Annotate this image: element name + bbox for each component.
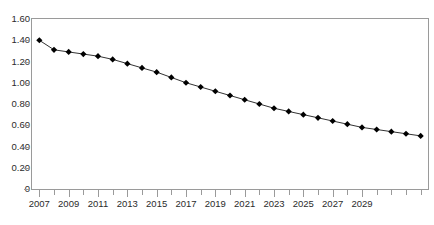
data-point-marker (110, 56, 116, 62)
x-tick-label: 2019 (205, 198, 226, 209)
x-tick-mark (39, 190, 40, 197)
x-tick-label: 2023 (263, 198, 284, 209)
x-tick-mark (274, 190, 275, 197)
x-tick-mark (69, 190, 70, 197)
y-axis-labels: 1.601.401.201.000.800.600.400.200 (0, 0, 30, 225)
y-tick-label: 1.60 (12, 14, 31, 24)
y-tick-mark (24, 104, 30, 105)
x-tick-mark (186, 190, 187, 197)
data-point-marker (256, 101, 262, 107)
data-point-marker (374, 126, 380, 132)
chart-figure: 1.601.401.201.000.800.600.400.200 200720… (0, 0, 434, 225)
data-point-marker (330, 118, 336, 124)
x-tick-label: 2027 (322, 198, 343, 209)
data-point-marker (403, 131, 409, 137)
data-point-marker (198, 84, 204, 90)
data-point-marker (154, 69, 160, 75)
x-tick-mark (318, 190, 319, 195)
x-tick-mark (215, 190, 216, 197)
x-tick-mark (421, 190, 422, 195)
x-tick-mark (245, 190, 246, 197)
data-point-marker (315, 115, 321, 121)
y-tick-mark (24, 147, 30, 148)
data-point-marker (95, 53, 101, 59)
x-tick-label: 2009 (58, 198, 79, 209)
data-point-marker (212, 88, 218, 94)
y-tick-mark (24, 62, 30, 63)
line-series (32, 19, 428, 189)
x-tick-label: 2007 (29, 198, 50, 209)
x-tick-mark (377, 190, 378, 195)
data-point-marker (80, 51, 86, 57)
x-tick-label: 2013 (117, 198, 138, 209)
x-tick-label: 2011 (88, 198, 108, 209)
y-tick-mark (24, 168, 30, 169)
data-point-marker (344, 121, 350, 127)
data-point-marker (139, 65, 145, 71)
x-tick-mark (98, 190, 99, 197)
x-tick-mark (201, 190, 202, 195)
data-point-marker (124, 61, 130, 67)
x-axis-labels: 2007200920112013201520172019202120232025… (0, 198, 434, 218)
x-tick-mark (406, 190, 407, 195)
data-point-marker (388, 129, 394, 135)
data-point-marker (168, 74, 174, 80)
y-tick-mark (24, 189, 30, 190)
x-tick-label: 2015 (146, 198, 167, 209)
x-tick-mark (113, 190, 114, 195)
plot-area (31, 18, 429, 190)
x-tick-mark (142, 190, 143, 195)
y-tick-mark (24, 125, 30, 126)
x-tick-mark (289, 190, 290, 195)
x-tick-mark (303, 190, 304, 197)
data-point-marker (242, 97, 248, 103)
data-point-marker (183, 80, 189, 86)
x-tick-label: 2017 (175, 198, 196, 209)
x-tick-mark (230, 190, 231, 195)
data-point-marker (36, 37, 42, 43)
x-tick-mark (54, 190, 55, 195)
x-tick-mark (171, 190, 172, 195)
y-tick-mark (24, 40, 30, 41)
data-point-marker (51, 47, 57, 53)
x-tick-label: 2025 (293, 198, 314, 209)
data-point-marker (271, 105, 277, 111)
data-point-marker (66, 49, 72, 55)
x-tick-mark (391, 190, 392, 195)
x-tick-mark (259, 190, 260, 195)
data-point-marker (359, 124, 365, 130)
x-tick-mark (347, 190, 348, 195)
x-tick-label: 2029 (351, 198, 372, 209)
data-point-marker (227, 92, 233, 98)
x-tick-mark (333, 190, 334, 197)
x-tick-mark (127, 190, 128, 197)
y-tick-mark (24, 83, 30, 84)
x-tick-mark (362, 190, 363, 197)
data-point-marker (418, 133, 424, 139)
data-point-marker (286, 108, 292, 114)
data-point-marker (300, 112, 306, 118)
x-tick-mark (83, 190, 84, 195)
x-tick-mark (157, 190, 158, 197)
x-tick-label: 2021 (234, 198, 255, 209)
